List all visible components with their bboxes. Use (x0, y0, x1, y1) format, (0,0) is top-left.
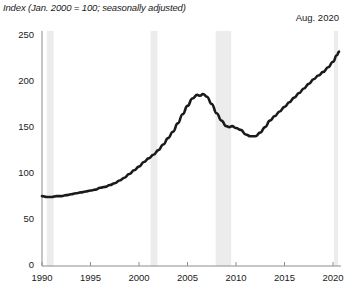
recession-band (334, 31, 338, 266)
y-axis-tick-label: 200 (4, 75, 34, 86)
recession-band (216, 31, 232, 266)
line-chart-plot (0, 0, 345, 296)
recession-band (151, 31, 158, 266)
y-axis-tick-label: 150 (4, 121, 34, 132)
y-axis-tick-label: 100 (4, 167, 34, 178)
x-axis-tick-label: 2000 (119, 272, 159, 283)
data-line-series-0 (42, 52, 339, 197)
y-axis-tick-label: 50 (4, 213, 34, 224)
y-axis-tick-label: 250 (4, 29, 34, 40)
x-axis-tick-label: 2005 (168, 272, 208, 283)
recession-band (47, 31, 54, 266)
x-axis-tick-label: 2020 (313, 272, 345, 283)
x-axis-tick-label: 1995 (71, 272, 111, 283)
x-axis-tick-label: 2010 (216, 272, 256, 283)
chart-container: Index (Jan. 2000 = 100; seasonally adjus… (0, 0, 345, 296)
x-axis-tick-label: 1990 (22, 272, 62, 283)
x-axis-tick-label: 2015 (265, 272, 305, 283)
y-axis-tick-label: 0 (4, 259, 34, 270)
